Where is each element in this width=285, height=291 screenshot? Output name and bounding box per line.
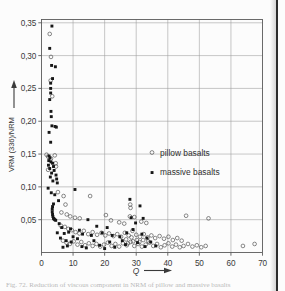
data-point-massive-basalt: [101, 231, 104, 234]
y-axis-arrow-head: [11, 80, 17, 88]
data-point-pillow-basalt: [60, 211, 64, 215]
data-point-massive-basalt: [136, 241, 139, 244]
data-point-pillow-basalt: [76, 243, 80, 247]
data-point-pillow-basalt: [167, 241, 171, 245]
x-tick-label: 50: [195, 259, 204, 268]
data-point-massive-basalt: [53, 193, 56, 196]
data-point-pillow-basalt: [175, 236, 179, 240]
data-point-massive-basalt: [125, 231, 128, 234]
data-point-massive-basalt: [95, 225, 98, 228]
data-point-pillow-basalt: [170, 245, 174, 249]
data-point-massive-basalt: [154, 244, 157, 247]
data-point-massive-basalt: [140, 233, 143, 236]
y-tick-label: 0,15: [21, 150, 37, 159]
data-point-massive-basalt: [47, 164, 50, 167]
data-point-pillow-basalt: [95, 233, 99, 237]
x-axis-arrow-head: [164, 268, 172, 274]
data-point-pillow-basalt: [195, 243, 199, 247]
legend-label-pillow-basalts: pillow basalts: [160, 148, 210, 158]
data-point-massive-basalt: [57, 199, 60, 202]
data-point-massive-basalt: [51, 162, 54, 165]
data-point-massive-basalt: [48, 131, 51, 134]
data-point-massive-basalt: [50, 110, 53, 113]
data-point-massive-basalt: [106, 226, 109, 229]
data-point-pillow-basalt: [124, 238, 128, 242]
data-point-pillow-basalt: [86, 232, 90, 236]
data-point-pillow-basalt: [132, 215, 136, 219]
plot-frame: [42, 20, 263, 253]
axis-ticks-layer: [38, 23, 262, 256]
data-point-massive-basalt: [90, 234, 93, 237]
y-tick-label: 0,30: [21, 52, 37, 61]
plot-frame-rect: [42, 20, 263, 253]
data-point-massive-basalt: [50, 172, 53, 175]
data-point-pillow-basalt: [150, 234, 154, 238]
data-point-pillow-basalt: [79, 240, 83, 244]
y-tick-label: 0,20: [21, 117, 37, 126]
data-point-pillow-basalt: [50, 94, 54, 98]
data-point-massive-basalt: [51, 208, 54, 211]
data-point-massive-basalt: [51, 180, 54, 183]
y-axis-title: VRM (336)/NRM: [7, 117, 16, 172]
data-point-pillow-basalt: [114, 242, 118, 246]
x-tick-label: 0: [39, 259, 44, 268]
data-point-massive-basalt: [50, 64, 53, 67]
data-point-pillow-basalt: [82, 229, 86, 233]
gridlines-layer: [42, 20, 263, 253]
data-point-massive-basalt: [52, 202, 55, 205]
data-point-massive-basalt: [103, 247, 106, 250]
data-point-pillow-basalt: [63, 225, 67, 229]
data-point-pillow-basalt: [159, 245, 163, 249]
data-point-massive-basalt: [72, 235, 75, 238]
y-tick-label: 0,35: [21, 19, 37, 28]
data-point-pillow-basalt: [130, 236, 134, 240]
data-point-massive-basalt: [60, 226, 63, 229]
data-point-massive-basalt: [86, 218, 89, 221]
data-point-massive-basalt: [54, 219, 57, 222]
data-point-massive-basalt: [51, 210, 54, 213]
data-point-massive-basalt: [66, 244, 69, 247]
data-point-pillow-basalt: [204, 244, 208, 248]
data-point-pillow-basalt: [140, 245, 144, 249]
data-point-massive-basalt: [70, 241, 73, 244]
data-point-pillow-basalt: [122, 222, 126, 226]
data-point-pillow-basalt: [186, 242, 190, 246]
data-point-massive-basalt: [49, 157, 52, 160]
data-point-pillow-basalt: [87, 241, 91, 245]
y-tick-label: 0,10: [21, 183, 37, 192]
data-point-massive-basalt: [149, 241, 152, 244]
data-point-massive-basalt: [78, 229, 81, 232]
x-tick-label: 40: [163, 259, 172, 268]
data-point-massive-basalt: [146, 237, 149, 240]
data-point-massive-basalt: [56, 231, 59, 234]
data-point-pillow-basalt: [174, 243, 178, 247]
data-point-pillow-basalt: [56, 190, 60, 194]
data-point-massive-basalt: [118, 235, 121, 238]
data-point-pillow-basalt: [153, 236, 157, 240]
data-point-massive-basalt: [62, 246, 65, 249]
data-point-pillow-basalt: [117, 220, 121, 224]
series-massive-basalts: [47, 25, 158, 250]
data-point-pillow-basalt: [199, 245, 203, 249]
data-point-pillow-basalt: [141, 238, 145, 242]
data-point-massive-basalt: [121, 239, 124, 242]
data-point-pillow-basalt: [74, 230, 78, 234]
x-tick-label: 60: [227, 259, 236, 268]
data-point-massive-basalt: [49, 87, 52, 90]
data-point-pillow-basalt: [163, 243, 167, 247]
y-tick-label: 0,05: [21, 216, 37, 225]
data-point-massive-basalt: [50, 115, 53, 118]
data-point-pillow-basalt: [241, 244, 245, 248]
x-axis-title: Q: [133, 266, 140, 276]
data-point-massive-basalt: [50, 124, 53, 127]
data-point-massive-basalt: [134, 222, 137, 225]
data-point-massive-basalt: [48, 47, 51, 50]
data-point-pillow-basalt: [62, 194, 66, 198]
data-point-massive-basalt: [130, 216, 133, 219]
data-point-massive-basalt: [55, 126, 58, 129]
data-point-pillow-basalt: [184, 214, 188, 218]
legend-marker-massive-basalts: [151, 171, 154, 174]
data-point-massive-basalt: [47, 187, 50, 190]
series-pillow-basalts: [45, 32, 257, 249]
legend-label-massive-basalts: massive basalts: [160, 167, 220, 177]
